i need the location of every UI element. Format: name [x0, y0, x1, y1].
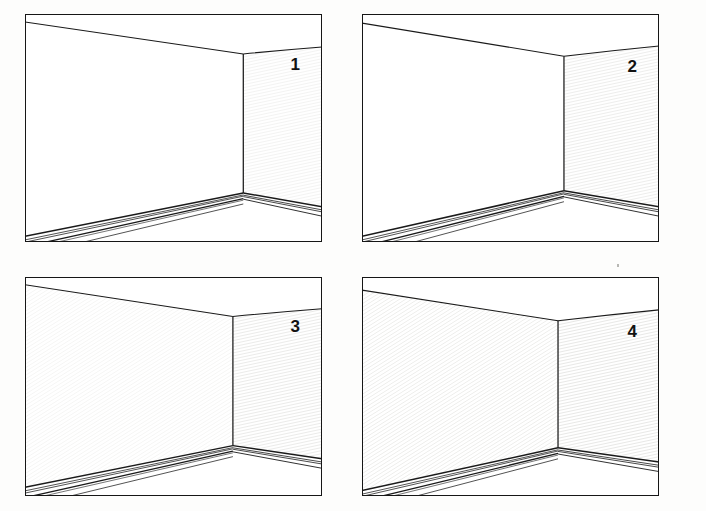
panel-1: 1 [25, 14, 322, 242]
panel-1-drawing [25, 14, 322, 242]
panel-3-left-wall [25, 285, 233, 488]
panel-2-drawing [362, 14, 659, 242]
panel-2-baseboard-left-0 [362, 191, 564, 237]
panel-2-right-wall [564, 46, 659, 207]
panel-4-right-wall [558, 310, 659, 462]
panel-4: 4 [362, 277, 659, 496]
panel-4-drawing [362, 277, 659, 496]
panel-2: 2 [362, 14, 659, 242]
panel-3-drawing [25, 277, 322, 496]
panel-1-right-wall [243, 47, 322, 207]
panel-3-label: 3 [291, 318, 300, 335]
panel-2-label: 2 [628, 58, 637, 75]
panel-1-baseboard-left-2 [25, 196, 243, 242]
panel-grid: 1 2 3 4 [0, 0, 706, 511]
panel-1-baseboard-left-1 [25, 195, 243, 240]
panel-2-baseboard-left-2 [362, 194, 564, 242]
ink-speck [617, 264, 619, 267]
panel-1-label: 1 [291, 56, 300, 73]
panel-2-ceiling-left-line [362, 23, 564, 56]
panel-1-ceiling-left-line [25, 22, 243, 54]
panel-3: 3 [25, 277, 322, 496]
panel-3-right-wall [233, 309, 322, 459]
panel-4-label: 4 [628, 323, 637, 340]
panel-2-baseboard-left-1 [362, 193, 564, 240]
